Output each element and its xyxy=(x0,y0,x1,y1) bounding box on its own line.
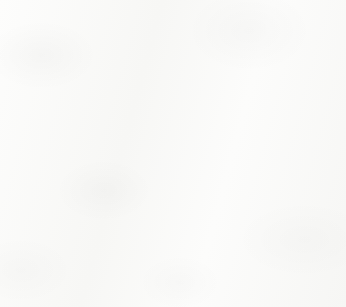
x-axis-label: x xyxy=(162,85,168,96)
curve-label-p-prime: p' xyxy=(91,193,98,202)
panel-top-left: x y 0 a b r' xyxy=(0,0,173,153)
origin-label: 0 xyxy=(226,94,231,105)
y-axis-arrow-icon xyxy=(78,22,87,32)
endpoint-dot-b xyxy=(285,125,289,129)
curve-q-prime xyxy=(202,201,278,276)
curve-u-prime xyxy=(202,42,287,127)
endpoint-dot-b xyxy=(133,44,137,48)
curve-label-r-prime: r' xyxy=(136,24,141,33)
figure-grid: x y 0 a b r' x y 0 a xyxy=(0,0,346,307)
y-axis-arrow-icon xyxy=(233,22,242,32)
endpoint-dot-b xyxy=(276,274,280,278)
panel-top-right: x y 0 a b u' xyxy=(173,0,346,153)
y-axis-arrow-icon xyxy=(81,174,90,184)
right-bound-label-b: b xyxy=(283,250,288,261)
endpoint-dot-a xyxy=(32,134,36,138)
x-axis-arrow-icon xyxy=(311,242,321,251)
origin-label: 0 xyxy=(230,249,235,260)
x-axis-arrow-icon xyxy=(315,87,325,96)
endpoint-dot-a xyxy=(200,274,204,278)
panel-bottom-right: x y 0 a b q' xyxy=(173,154,346,307)
origin-label: 0 xyxy=(74,249,79,260)
right-bound-label-b: b xyxy=(132,95,137,106)
y-axis-label: y xyxy=(234,162,240,173)
endpoint-dot-a xyxy=(30,207,34,211)
y-axis-label: y xyxy=(230,10,236,21)
x-axis-label: x xyxy=(162,240,168,251)
curve-label-q-prime: q' xyxy=(261,191,267,200)
origin-label: 0 xyxy=(71,94,76,105)
left-bound-label-a: a xyxy=(198,95,203,106)
left-bound-label-a: a xyxy=(25,95,30,106)
x-axis-label: x xyxy=(323,240,329,251)
right-bound-label-b: b xyxy=(293,95,298,106)
x-axis-arrow-icon xyxy=(152,242,162,251)
endpoint-dot-b xyxy=(143,207,147,211)
left-bound-label-a: a xyxy=(24,250,29,261)
curve-label-u-prime: u' xyxy=(261,52,267,61)
panel-bottom-left: x y 0 a b p' xyxy=(0,154,173,307)
endpoint-dot-a xyxy=(200,40,204,44)
x-axis-label: x xyxy=(327,85,333,96)
y-axis-arrow-icon xyxy=(237,174,246,184)
y-axis-label: y xyxy=(78,162,84,173)
right-bound-label-b: b xyxy=(142,250,147,261)
left-bound-label-a: a xyxy=(193,250,198,261)
y-axis-label: y xyxy=(75,10,81,21)
x-axis-arrow-icon xyxy=(152,87,162,96)
